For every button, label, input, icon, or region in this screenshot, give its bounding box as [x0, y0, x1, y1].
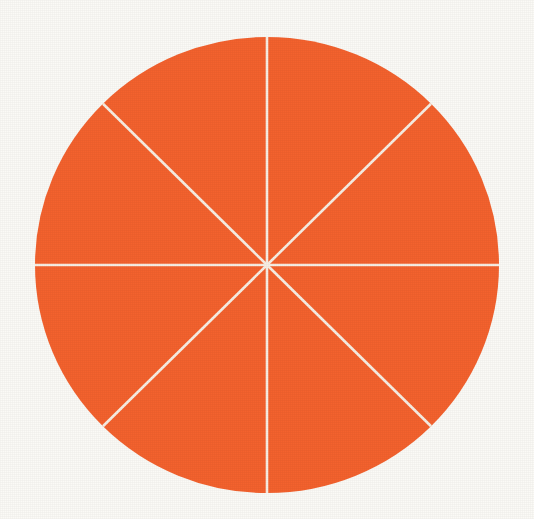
fraction-circle-figure [0, 0, 534, 519]
fraction-circle-diagram [0, 0, 534, 519]
sector-divider-lines [35, 37, 499, 493]
